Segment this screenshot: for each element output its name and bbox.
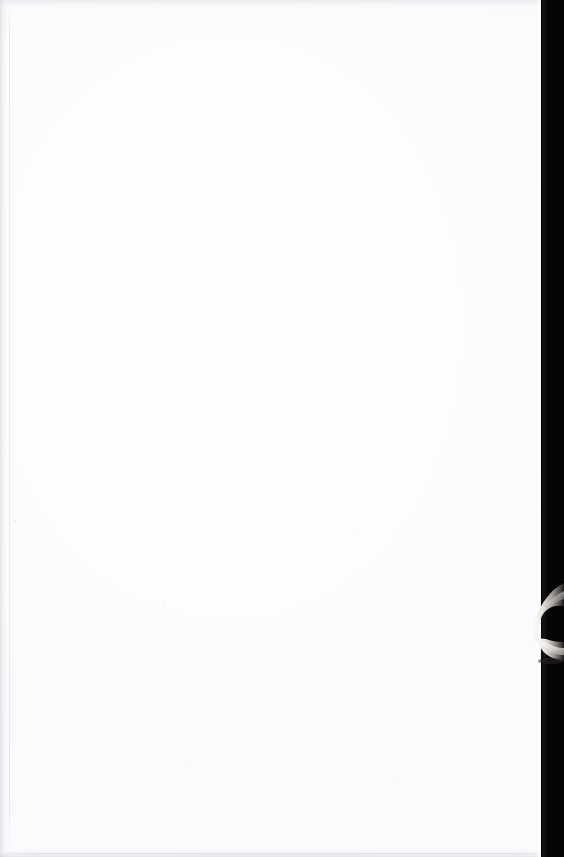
dust-speck <box>96 126 97 127</box>
dust-speck <box>394 782 395 783</box>
dust-speck <box>49 294 51 296</box>
dust-speck <box>479 280 480 281</box>
dust-speck <box>188 763 190 765</box>
left-margin-crease-line <box>9 0 10 857</box>
dust-speck-layer <box>0 0 541 857</box>
dust-speck <box>220 480 222 482</box>
dust-speck <box>272 665 274 667</box>
dust-speck <box>163 604 165 606</box>
top-edge-shadow <box>0 0 541 14</box>
paper-surface <box>0 0 541 857</box>
dust-speck <box>74 698 75 699</box>
dust-speck <box>360 640 361 641</box>
dust-speck <box>356 529 358 531</box>
dust-speck <box>255 96 256 97</box>
dust-speck <box>226 455 227 456</box>
scanned-page: Blank page <box>0 0 564 857</box>
dust-speck <box>297 602 298 603</box>
dust-speck <box>14 520 16 522</box>
dust-speck <box>265 419 267 421</box>
dust-speck <box>356 435 358 437</box>
dust-speck <box>357 531 358 532</box>
paper-tone-gradient <box>0 0 541 857</box>
dust-speck <box>131 362 133 364</box>
dust-speck <box>19 525 20 526</box>
bottom-cut-hairline <box>0 853 541 854</box>
dust-speck <box>508 478 509 479</box>
dust-speck <box>362 209 363 210</box>
dust-speck <box>432 625 433 626</box>
scanner-void-region <box>541 0 564 857</box>
left-edge-shadow <box>0 0 13 857</box>
dust-speck <box>437 594 438 595</box>
bottom-edge-shadow <box>0 846 541 857</box>
